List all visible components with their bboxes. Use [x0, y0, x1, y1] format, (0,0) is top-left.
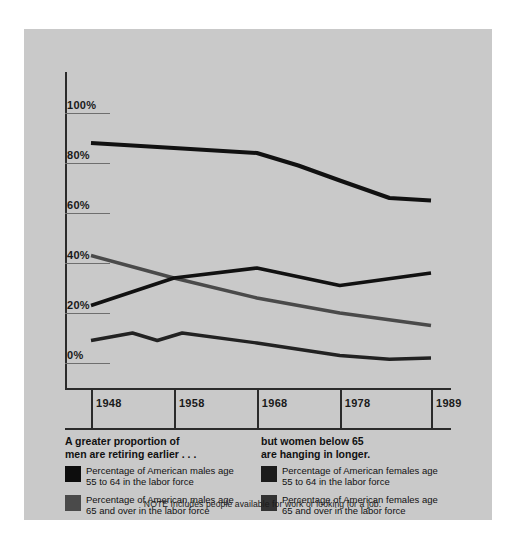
- x-axis-tick: [431, 389, 433, 429]
- legend-headline-women: but women below 65 are hanging in longer…: [261, 435, 457, 460]
- x-axis-band: 19481958196819781989: [65, 389, 451, 429]
- legend-column-men: A greater proportion of men are retiring…: [65, 435, 261, 523]
- x-axis-label: 1958: [179, 397, 205, 409]
- chart-note: NOTE Includes people available for work …: [65, 499, 460, 509]
- legend-column-women: but women below 65 are hanging in longer…: [261, 435, 457, 523]
- y-axis-tick: [65, 113, 110, 114]
- y-axis-tick: [65, 213, 110, 214]
- series-line-females-65-over: [91, 333, 431, 359]
- x-axis-label: 1978: [345, 397, 371, 409]
- series-line-males-55-64: [91, 143, 431, 201]
- y-axis-label: 100%: [67, 99, 96, 111]
- y-axis-tick: [65, 263, 110, 264]
- x-axis-tick: [257, 389, 259, 429]
- x-axis-tick: [174, 389, 176, 429]
- x-axis-label: 1948: [96, 397, 122, 409]
- legend-swatch-females-55-64: [261, 466, 277, 482]
- y-axis-tick: [65, 363, 110, 364]
- legend-item: Percentage of American males age 55 to 6…: [65, 465, 261, 487]
- legend-headline-men: A greater proportion of men are retiring…: [65, 435, 261, 460]
- y-axis-label: 20%: [67, 299, 90, 311]
- x-axis-tick: [340, 389, 342, 429]
- y-axis-label: 60%: [67, 199, 90, 211]
- y-axis-label: 40%: [67, 249, 90, 261]
- legend-label-females-55-64: Percentage of American females age 55 to…: [282, 465, 438, 487]
- y-axis-label: 0%: [67, 349, 84, 361]
- plot-area: 100%80%60%40%20%0%: [65, 72, 451, 389]
- series-line-males-65-over: [91, 256, 431, 326]
- x-axis-label: 1968: [262, 397, 288, 409]
- chart-figure: 100%80%60%40%20%0% 19481958196819781989 …: [24, 29, 492, 520]
- y-axis-label: 80%: [67, 149, 90, 161]
- chart-lines: [65, 72, 451, 389]
- x-axis-tick: [91, 389, 93, 429]
- y-axis-tick: [65, 313, 110, 314]
- legend-item: Percentage of American females age 55 to…: [261, 465, 457, 487]
- legend-swatch-males-55-64: [65, 466, 81, 482]
- x-axis-label: 1989: [436, 397, 462, 409]
- y-axis-tick: [65, 163, 110, 164]
- legend-label-males-55-64: Percentage of American males age 55 to 6…: [86, 465, 234, 487]
- x-axis-bottom-rule: [65, 428, 451, 430]
